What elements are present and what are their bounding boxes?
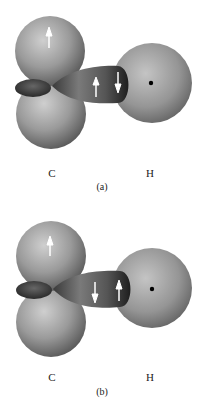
carbon-hybrid-small-lobe xyxy=(16,281,52,299)
panel-b: C H (b) xyxy=(0,204,201,400)
hydrogen-nucleus-dot xyxy=(150,287,154,291)
panel-caption: (a) xyxy=(96,182,107,192)
atom-label-hydrogen: H xyxy=(146,168,154,179)
carbon-hybrid-small-lobe xyxy=(15,79,51,97)
atom-label-hydrogen: H xyxy=(146,372,154,383)
ch-orbital-diagram-a xyxy=(0,0,201,200)
ch-orbital-diagram-b xyxy=(0,204,201,400)
atom-label-carbon: C xyxy=(48,372,55,383)
panel-a: C H (a) xyxy=(0,0,201,200)
hydrogen-nucleus-dot xyxy=(149,81,153,85)
atom-label-carbon: C xyxy=(48,168,55,179)
panel-caption: (b) xyxy=(96,387,108,397)
